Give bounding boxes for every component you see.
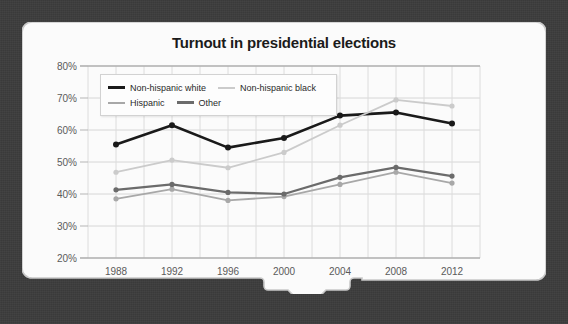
legend-row-2: Hispanic Other [108, 95, 328, 110]
legend-item-non-hispanic-white: Non-hispanic white [108, 83, 206, 93]
svg-text:40%: 40% [57, 189, 77, 200]
y-axis-tick-labels: 20%30%40%50%60%70%80% [57, 61, 88, 264]
x-axis-tick-labels: 1988199219962000200420082012 [105, 266, 464, 277]
svg-text:50%: 50% [57, 157, 77, 168]
svg-text:1996: 1996 [217, 266, 240, 277]
legend-item-hispanic: Hispanic [108, 98, 165, 108]
svg-text:2008: 2008 [385, 266, 408, 277]
legend-label-non-hispanic-black: Non-hispanic black [240, 83, 316, 93]
svg-text:80%: 80% [57, 61, 77, 72]
legend-label-hispanic: Hispanic [130, 98, 165, 108]
svg-text:1988: 1988 [105, 266, 128, 277]
legend-swatch-non-hispanic-black [218, 87, 235, 89]
legend-swatch-hispanic [108, 102, 125, 104]
legend-label-other: Other [199, 98, 222, 108]
legend-row-1: Non-hispanic white Non-hispanic black [108, 80, 328, 95]
svg-text:60%: 60% [57, 125, 77, 136]
svg-text:2012: 2012 [441, 266, 464, 277]
svg-text:2004: 2004 [329, 266, 352, 277]
chart-legend: Non-hispanic white Non-hispanic black Hi… [100, 74, 337, 116]
legend-item-other: Other [177, 98, 222, 108]
chart-plot-region: Turnout in presidential elections 20%30%… [22, 22, 546, 284]
svg-text:30%: 30% [57, 221, 77, 232]
svg-text:70%: 70% [57, 93, 77, 104]
legend-swatch-other [177, 101, 194, 104]
legend-item-non-hispanic-black: Non-hispanic black [218, 83, 316, 93]
legend-label-non-hispanic-white: Non-hispanic white [130, 83, 206, 93]
svg-text:2000: 2000 [273, 266, 296, 277]
svg-text:20%: 20% [57, 253, 77, 264]
legend-swatch-non-hispanic-white [108, 86, 125, 89]
chart-card: Turnout in presidential elections 20%30%… [22, 22, 546, 294]
line-chart-svg: 20%30%40%50%60%70%80% 198819921996200020… [22, 22, 546, 284]
svg-text:1992: 1992 [161, 266, 184, 277]
